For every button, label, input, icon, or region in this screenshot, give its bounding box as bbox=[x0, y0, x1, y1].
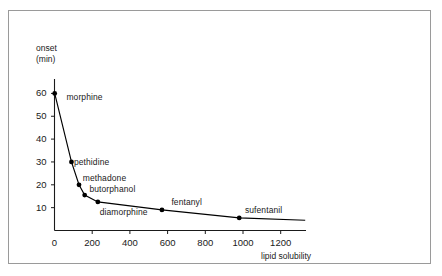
data-point-methadone bbox=[77, 182, 82, 187]
x-tick-label-0: 0 bbox=[42, 237, 68, 248]
y-tick-label-20: 20 bbox=[31, 179, 47, 190]
y-tick-label-40: 40 bbox=[31, 133, 47, 144]
y-tick-label-60: 60 bbox=[31, 87, 47, 98]
annotation-methadone: methadone bbox=[83, 174, 126, 184]
y-tick-label-10: 10 bbox=[31, 202, 47, 213]
annotation-fentanyl: fentanyl bbox=[171, 198, 202, 208]
y-tick-label-30: 30 bbox=[31, 156, 47, 167]
y-axis-title-line1: onset bbox=[36, 43, 57, 54]
x-tick-label-1000: 1000 bbox=[230, 237, 256, 248]
data-point-sufentanil bbox=[237, 216, 242, 221]
annotation-sufentanil: sufentanil bbox=[245, 206, 282, 216]
x-axis-title: lipid solubility bbox=[261, 251, 311, 261]
x-tick-label-200: 200 bbox=[79, 237, 105, 248]
annotation-pethidine: pethidine bbox=[74, 158, 109, 168]
x-tick-label-400: 400 bbox=[117, 237, 143, 248]
data-point-morphine bbox=[52, 91, 57, 96]
annotation-butorphanol: butorphanol bbox=[89, 185, 135, 195]
y-tick-label-50: 50 bbox=[31, 110, 47, 121]
x-tick-label-600: 600 bbox=[155, 237, 181, 248]
annotation-morphine: morphine bbox=[66, 93, 102, 103]
figure-frame: onset (min) lipid solubility 10203040506… bbox=[8, 10, 431, 264]
data-point-markers bbox=[52, 91, 241, 220]
data-point-butorphanol bbox=[82, 193, 87, 198]
y-axis-title: onset (min) bbox=[36, 43, 57, 64]
annotation-diamorphine: diamorphine bbox=[100, 208, 148, 218]
y-axis-title-line2: (min) bbox=[36, 54, 57, 65]
x-tick-label-800: 800 bbox=[192, 237, 218, 248]
chart-plot-area bbox=[9, 11, 432, 265]
x-tick-label-1200: 1200 bbox=[268, 237, 294, 248]
data-point-fentanyl bbox=[160, 208, 165, 213]
data-point-diamorphine bbox=[95, 200, 100, 205]
